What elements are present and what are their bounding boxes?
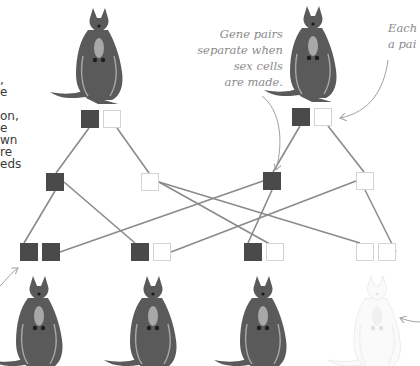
offspring-allele-box bbox=[379, 244, 396, 261]
kangaroo-paw bbox=[257, 326, 261, 330]
connection-line bbox=[24, 191, 55, 243]
kangaroo-silhouette bbox=[50, 8, 123, 104]
kangaroo-chest bbox=[94, 38, 104, 58]
kangaroo-silhouette bbox=[328, 276, 401, 366]
connection-line bbox=[248, 190, 272, 243]
kangaroo-paw bbox=[41, 326, 45, 330]
kangaroo-silhouette bbox=[264, 6, 337, 102]
connection-line bbox=[328, 126, 364, 172]
offspring-kangaroo bbox=[214, 276, 287, 366]
kangaroo-paw bbox=[33, 326, 37, 330]
offspring-allele-box bbox=[357, 244, 374, 261]
parent-kangaroo bbox=[264, 6, 337, 102]
kangaroo-paw bbox=[147, 326, 151, 330]
kangaroo-nose bbox=[375, 292, 378, 295]
parent-allele-box bbox=[293, 109, 310, 126]
kangaroo-paw bbox=[93, 58, 97, 62]
kangaroo-nose bbox=[37, 292, 40, 295]
kangaroo-chest bbox=[308, 36, 318, 56]
offspring-kangaroo bbox=[0, 276, 63, 366]
kangaroo-silhouette bbox=[104, 276, 177, 366]
kangaroo-paw bbox=[265, 326, 269, 330]
kangaroo-chest bbox=[372, 306, 382, 326]
offspring-allele-box bbox=[43, 244, 60, 261]
kangaroo-paw bbox=[315, 56, 319, 60]
kangaroo-nose bbox=[97, 24, 100, 27]
kangaroo-paw bbox=[379, 326, 383, 330]
arrow-to-parent-pair bbox=[340, 60, 388, 118]
kangaroo-paw bbox=[307, 56, 311, 60]
inheritance-diagram bbox=[0, 0, 420, 366]
kangaroo-silhouette bbox=[0, 276, 63, 366]
offspring-allele-box bbox=[154, 244, 171, 261]
connection-line bbox=[117, 128, 149, 173]
parent-allele-box bbox=[104, 111, 121, 128]
offspring-allele-box bbox=[267, 244, 284, 261]
kangaroo-paw bbox=[101, 58, 105, 62]
offspring-kangaroo bbox=[104, 276, 177, 366]
parent-allele-box bbox=[315, 109, 332, 126]
kangaroo-chest bbox=[148, 306, 158, 326]
connection-line bbox=[60, 181, 263, 252]
gamete-allele-box bbox=[357, 173, 374, 190]
kangaroo-chest bbox=[258, 306, 268, 326]
arrow-to-albino bbox=[400, 318, 420, 322]
kangaroo-paw bbox=[371, 326, 375, 330]
connection-line bbox=[64, 182, 135, 243]
kangaroo-nose bbox=[311, 22, 314, 25]
connection-line bbox=[159, 182, 284, 252]
arrow-to-gamete bbox=[262, 96, 280, 170]
arrow-to-offspring-pair bbox=[0, 268, 18, 286]
kangaroo-paw bbox=[155, 326, 159, 330]
connection-line bbox=[56, 128, 89, 173]
offspring-allele-box bbox=[245, 244, 262, 261]
offspring-allele-box bbox=[132, 244, 149, 261]
kangaroo-nose bbox=[261, 292, 264, 295]
parent-kangaroo bbox=[50, 8, 123, 104]
offspring-allele-box bbox=[21, 244, 38, 261]
connection-lines bbox=[24, 126, 396, 252]
kangaroo-nose bbox=[151, 292, 154, 295]
offspring-kangaroo bbox=[328, 276, 401, 366]
kangaroo-silhouette bbox=[214, 276, 287, 366]
kangaroo-chest bbox=[34, 306, 44, 326]
gamete-allele-box bbox=[264, 173, 281, 190]
parent-allele-box bbox=[82, 111, 99, 128]
gamete-allele-box bbox=[47, 174, 64, 191]
gamete-allele-box bbox=[142, 174, 159, 191]
connection-line bbox=[365, 190, 396, 252]
